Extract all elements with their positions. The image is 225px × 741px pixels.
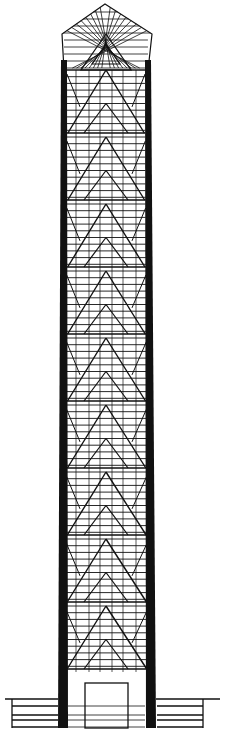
figure-caption [0, 731, 225, 741]
tower-base [5, 683, 220, 728]
pyramidal-cap [62, 4, 152, 70]
tower-elevation-drawing [0, 0, 225, 741]
tower-body [66, 70, 148, 672]
